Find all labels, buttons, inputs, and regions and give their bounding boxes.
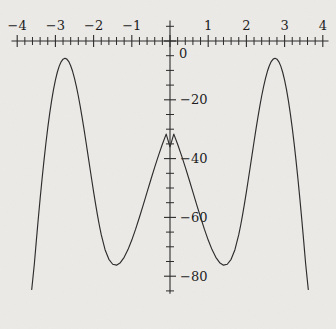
chart-background <box>0 0 336 329</box>
y-tick-label: −60 <box>180 210 207 225</box>
y-tick-label: 0 <box>179 46 187 61</box>
x-tick-label: −1 <box>122 18 141 33</box>
x-tick-label: −4 <box>8 18 27 33</box>
x-tick-label: 3 <box>280 18 288 33</box>
x-tick-label: 4 <box>319 18 327 33</box>
x-tick-label: −2 <box>84 18 103 33</box>
x-tick-label: −3 <box>46 18 65 33</box>
x-tick-label: 2 <box>242 18 250 33</box>
chart-figure: −4−3−2−11234 0−20−40−60−80 <box>0 0 336 329</box>
x-tick-label: 1 <box>204 18 212 33</box>
y-tick-label: −20 <box>180 92 207 107</box>
chart-canvas: −4−3−2−11234 0−20−40−60−80 <box>0 0 336 329</box>
y-tick-label: −80 <box>180 269 207 284</box>
